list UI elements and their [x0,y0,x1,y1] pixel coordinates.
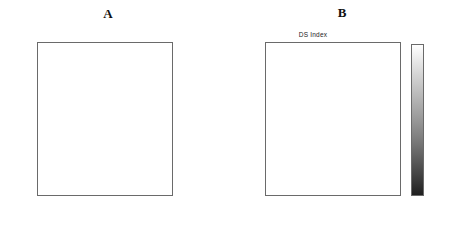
direction-arrow-legend [178,44,208,196]
ds-index-map-canvas [265,42,401,196]
direction-map-canvas [37,42,173,196]
direction-preference-map [37,42,173,196]
colorbar-gradient [411,44,424,196]
panel-b-title: B [322,5,362,21]
ds-index-map [265,42,401,196]
panel-a-title: A [88,6,128,22]
ds-index-subtitle: DS Index [268,31,358,38]
ds-index-colorbar [411,44,449,196]
figure-container: A B DS Index [0,0,452,229]
